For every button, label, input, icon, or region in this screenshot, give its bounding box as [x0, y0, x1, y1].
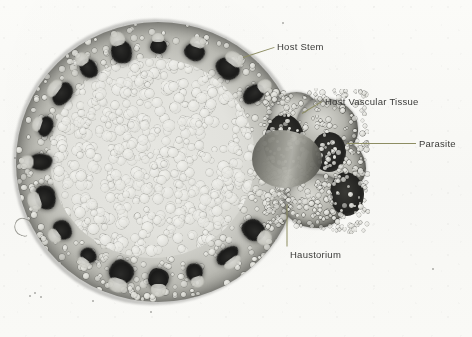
parasite-cell: [349, 120, 353, 124]
parasite-cell: [366, 210, 370, 214]
pith-cell: [244, 180, 255, 191]
parasite-cell: [345, 175, 349, 179]
parasite-cell: [360, 157, 363, 160]
cortex-cell: [17, 279, 21, 283]
pith-cell: [77, 102, 84, 109]
cortex-cell: [29, 171, 33, 175]
parasite-cell: [300, 224, 303, 227]
parasite-cell: [287, 193, 291, 197]
pith-cell: [156, 60, 166, 70]
dust-speck: [349, 113, 351, 115]
pith-cell: [86, 199, 96, 209]
pith-cell: [174, 218, 184, 228]
parasite-cell: [266, 224, 271, 229]
pith-cell: [245, 197, 255, 207]
pith-cell: [127, 141, 135, 149]
pith-cell: [162, 137, 170, 145]
cortex-cell: [26, 241, 31, 246]
cortex-cell: [250, 262, 256, 268]
pith-cell: [208, 88, 217, 97]
cortex-cell: [277, 278, 282, 283]
pith-cell: [206, 99, 216, 109]
cortex-cell: [91, 29, 97, 35]
parasite-cell: [285, 98, 290, 103]
cortex-cell: [30, 22, 35, 27]
parasite-cell: [263, 211, 266, 214]
pith-cell: [242, 241, 248, 247]
cortex-cell: [271, 264, 276, 269]
parasite-cell: [338, 228, 341, 231]
parasite-cell: [332, 229, 334, 231]
cortex-cell: [181, 292, 186, 297]
sclerenchyma-cap: [19, 156, 33, 169]
parasite-cell: [346, 144, 349, 147]
pith-cell: [59, 145, 66, 152]
cortex-cell: [272, 244, 275, 247]
parasite-cell: [357, 213, 361, 217]
parasite-cell: [338, 212, 343, 217]
cortex-cell: [84, 297, 88, 301]
cortex-cell: [66, 54, 69, 57]
parasite-cell: [299, 101, 304, 106]
cortex-cell: [89, 295, 93, 299]
cortex-cell: [34, 58, 38, 62]
parasite-cell: [352, 227, 356, 231]
pith-cell: [119, 217, 130, 228]
cortex-cell: [266, 274, 271, 279]
cortex-cell: [186, 24, 189, 27]
vascular-bundle: [28, 154, 52, 171]
cortex-cell: [261, 259, 267, 265]
parasite-cell: [304, 205, 309, 210]
cortex-cell: [31, 212, 37, 218]
cortex-cell: [273, 59, 277, 63]
pith-cell: [73, 88, 80, 95]
parasite-cell: [285, 190, 288, 193]
label-parasite: Parasite: [419, 138, 456, 149]
pith-cell: [155, 184, 163, 192]
cortex-cell: [24, 39, 28, 43]
pith-cell: [154, 246, 162, 254]
pith-cell: [85, 218, 91, 224]
pith-cell: [145, 82, 150, 87]
cortex-cell: [67, 252, 70, 255]
cortex-cell: [30, 257, 34, 261]
cortex-cell: [277, 267, 282, 272]
cortex-cell: [292, 238, 296, 242]
parasite-cell: [288, 127, 291, 130]
pith-cell: [105, 65, 111, 71]
cortex-cell: [217, 41, 222, 46]
parasite-cell: [294, 224, 298, 228]
parasite-cell: [349, 203, 354, 208]
pith-cell: [161, 72, 168, 79]
cortex-cell: [171, 273, 174, 276]
parasite-cell: [326, 157, 331, 162]
pith-cell: [131, 64, 139, 72]
cortex-cell: [233, 34, 239, 40]
cortex-cell: [289, 75, 293, 79]
parasite-cell: [316, 193, 321, 198]
pith-cell: [212, 147, 217, 152]
pith-cell: [117, 157, 125, 165]
vascular-bundle: [150, 39, 167, 54]
pith-cell: [175, 191, 182, 198]
parasite-cell: [358, 168, 363, 173]
pith-cell: [155, 128, 160, 133]
cortex-cell: [44, 31, 47, 34]
cortex-cell: [265, 289, 268, 292]
parasite-cell: [360, 131, 365, 136]
pith-cell: [185, 66, 191, 72]
parasite-cell: [314, 93, 317, 96]
pith-cell: [223, 124, 228, 129]
pith-cell: [176, 181, 183, 188]
parasite-cell: [308, 91, 312, 95]
pith-cell: [220, 146, 226, 152]
parasite-cell: [269, 221, 272, 224]
parasite-cell: [280, 100, 285, 105]
pith-cell: [166, 204, 175, 213]
pith-cell: [195, 141, 203, 149]
parasite-cell: [296, 214, 298, 216]
cortex-cell: [255, 26, 259, 30]
parasite-cell: [352, 116, 357, 121]
pith-cell: [241, 68, 250, 77]
parasite-cell: [325, 179, 328, 182]
